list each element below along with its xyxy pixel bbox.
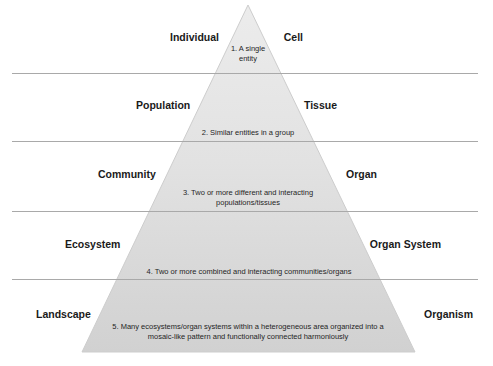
level-4-description: 4. Two or more combined and interacting …	[110, 267, 388, 277]
level-4-left-label: Ecosystem	[65, 238, 120, 250]
level-1-right-label: Cell	[284, 31, 303, 43]
level-3-description: 3. Two or more different and interacting…	[150, 188, 346, 208]
level-4-right-label: Organ System	[370, 238, 441, 250]
level-3-right-label: Organ	[346, 168, 377, 180]
level-divider-4	[12, 279, 478, 280]
level-divider-3	[12, 211, 478, 212]
level-5-left-label: Landscape	[36, 308, 91, 320]
level-1-description: 1. A single entity	[205, 44, 291, 64]
level-5-right-label: Organism	[424, 308, 473, 320]
level-5-description: 5. Many ecosystems/organ systems within …	[78, 322, 418, 342]
level-2-left-label: Population	[136, 99, 190, 111]
level-3-left-label: Community	[98, 168, 156, 180]
level-1-left-label: Individual	[170, 31, 219, 43]
level-2-right-label: Tissue	[304, 99, 337, 111]
level-2-description: 2. Similar entities in a group	[158, 128, 338, 138]
figure-canvas: Individual Cell 1. A single entity Popul…	[0, 0, 493, 366]
level-divider-1	[12, 73, 478, 74]
level-divider-2	[12, 141, 478, 142]
